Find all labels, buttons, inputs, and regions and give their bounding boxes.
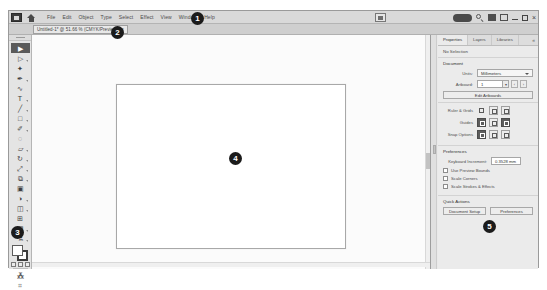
menu-file[interactable]: File: [47, 11, 55, 24]
rectangle-tool[interactable]: □: [11, 113, 30, 123]
none-mode-button[interactable]: [25, 262, 30, 267]
arrange-layout-icon[interactable]: [488, 14, 496, 21]
rulers-grids-label: Ruler & Grids: [443, 108, 477, 113]
search-icon[interactable]: [476, 14, 484, 22]
canvas-area[interactable]: [32, 35, 430, 269]
tab-properties[interactable]: Properties: [438, 35, 468, 45]
tab-layers[interactable]: Layers: [468, 35, 492, 45]
snap-options-label: Snap Options: [443, 132, 477, 137]
screenshot-root: File Edit Object Type Select Effect View…: [0, 0, 547, 290]
view-options-section: Ruler & Grids Guides Snap Options: [438, 103, 538, 146]
shaper-tool-glyph: ◌: [18, 135, 22, 142]
pen-tool[interactable]: ✒: [11, 73, 30, 83]
paintbrush-tool[interactable]: ✐: [11, 123, 30, 133]
snap-point-icon: [480, 133, 485, 138]
magic-wand-tool[interactable]: ✦: [11, 63, 30, 73]
home-icon[interactable]: [25, 12, 38, 23]
keyboard-increment-input[interactable]: 0.3528 mm: [491, 157, 521, 165]
mesh-tool[interactable]: ⊞: [11, 213, 30, 223]
document-section: Document Units: Millimeters Artboard: 1 …: [438, 58, 538, 103]
selection-tool[interactable]: ▶: [11, 43, 30, 53]
eraser-tool[interactable]: ▱: [11, 143, 30, 153]
menu-object[interactable]: Object: [79, 11, 94, 24]
properties-panel-tabs: Properties Layers Libraries «: [438, 35, 538, 46]
shaper-tool[interactable]: ◌: [11, 133, 30, 143]
line-segment-tool[interactable]: ╱: [11, 103, 30, 113]
lock-guides-button[interactable]: [489, 118, 498, 127]
rotate-tool[interactable]: ↻: [11, 153, 30, 163]
menu-type[interactable]: Type: [101, 11, 112, 24]
use-preview-bounds-checkbox[interactable]: Use Preview Bounds: [443, 168, 533, 173]
fill-stroke-swatches[interactable]: [10, 245, 30, 261]
menu-items: File Edit Object Type Select Effect View…: [47, 11, 215, 24]
color-mode-button[interactable]: [11, 262, 16, 267]
artboard-stepper[interactable]: ▾: [503, 80, 509, 88]
snap-to-glyph-button[interactable]: [501, 130, 510, 139]
perspective-grid-tool[interactable]: ◫: [11, 203, 30, 213]
properties-panel-grip[interactable]: [431, 35, 437, 269]
menu-view[interactable]: View: [161, 11, 172, 24]
width-tool[interactable]: ⧉: [11, 173, 30, 183]
snap-to-grid-button[interactable]: [501, 106, 510, 115]
scale-tool[interactable]: ⤢: [11, 163, 30, 173]
show-guides-button[interactable]: [477, 118, 486, 127]
minimize-icon[interactable]: [512, 19, 518, 20]
symbol-sprayer-tool[interactable]: ⁂: [11, 270, 30, 280]
edit-artboards-button[interactable]: Edit Artboards: [443, 91, 533, 99]
artboard-tool[interactable]: ⌗: [11, 280, 30, 290]
illustrator-app-window: File Edit Object Type Select Effect View…: [8, 10, 539, 268]
checkbox-box[interactable]: [443, 168, 448, 173]
panel-collapse-icon[interactable]: «: [532, 35, 538, 45]
units-row: Units: Millimeters: [443, 69, 533, 77]
document-tab-label: Untitled-1* @ 51.66 % (CMYK/Preview): [37, 27, 118, 32]
checkbox-box[interactable]: [443, 184, 448, 189]
gradient-mode-button[interactable]: [18, 262, 23, 267]
mesh-tool-glyph: ⊞: [17, 215, 23, 222]
fill-swatch[interactable]: [12, 245, 23, 256]
close-icon[interactable]: ×: [532, 14, 536, 21]
magic-wand-tool-glyph: ✦: [17, 65, 23, 72]
use-preview-bounds-label: Use Preview Bounds: [451, 168, 490, 173]
rulers-grids-row: Ruler & Grids: [443, 106, 533, 115]
maximize-icon[interactable]: [522, 15, 528, 21]
document-setup-button[interactable]: Document Setup: [443, 207, 486, 215]
shape-builder-tool[interactable]: ◑: [11, 193, 30, 203]
smart-guides-button[interactable]: [501, 118, 510, 127]
scale-corners-checkbox[interactable]: Scale Corners: [443, 176, 533, 181]
tool-divider: [13, 268, 28, 269]
screen-mode-icon[interactable]: [500, 14, 508, 21]
snap-options-row: Snap Options: [443, 130, 533, 139]
show-grid-button[interactable]: [489, 106, 498, 115]
previous-artboard-button[interactable]: ‹: [511, 80, 518, 88]
type-tool[interactable]: T: [11, 93, 30, 103]
arrange-documents-icon[interactable]: [375, 13, 386, 22]
preferences-button[interactable]: Preferences: [490, 207, 533, 215]
free-transform-tool[interactable]: ▣: [11, 183, 30, 193]
scale-strokes-effects-label: Scale Strokes & Effects: [451, 184, 495, 189]
panel-resize-handle[interactable]: [433, 145, 436, 154]
share-button[interactable]: [453, 14, 472, 22]
menu-edit[interactable]: Edit: [62, 11, 71, 24]
checkbox-box[interactable]: [443, 176, 448, 181]
smart-guides-icon: [504, 121, 509, 126]
next-artboard-button[interactable]: ›: [520, 80, 527, 88]
artboard[interactable]: [116, 84, 346, 249]
menu-effect[interactable]: Effect: [140, 11, 153, 24]
snap-to-pixel-button[interactable]: [489, 130, 498, 139]
show-rulers-button[interactable]: [477, 106, 486, 115]
units-select[interactable]: Millimeters: [477, 69, 533, 77]
scale-strokes-effects-checkbox[interactable]: Scale Strokes & Effects: [443, 184, 533, 189]
quick-actions-buttons: Document Setup Preferences: [443, 207, 533, 215]
snap-to-point-button[interactable]: [477, 130, 486, 139]
canvas-horizontal-scrollbar[interactable]: [32, 262, 430, 267]
artboard-number-input[interactable]: 1: [477, 80, 503, 88]
selection-tool-glyph: ▶: [18, 45, 23, 52]
tab-libraries[interactable]: Libraries: [492, 35, 519, 45]
curvature-tool[interactable]: ∿: [11, 83, 30, 93]
menu-select[interactable]: Select: [119, 11, 134, 24]
direct-selection-tool[interactable]: ▷: [11, 53, 30, 63]
menu-help[interactable]: Help: [204, 11, 215, 24]
selection-status-section: No Selection: [438, 46, 538, 58]
tool-list: ▶ ▷ ✦ ✒ ∿ T ╱ □ ✐ ◌ ▱ ↻ ⤢ ⧉ ▣ ◑ ◫ ⊞ ▤ ⚗: [9, 41, 31, 290]
symbol-sprayer-tool-glyph: ⁂: [17, 272, 24, 279]
